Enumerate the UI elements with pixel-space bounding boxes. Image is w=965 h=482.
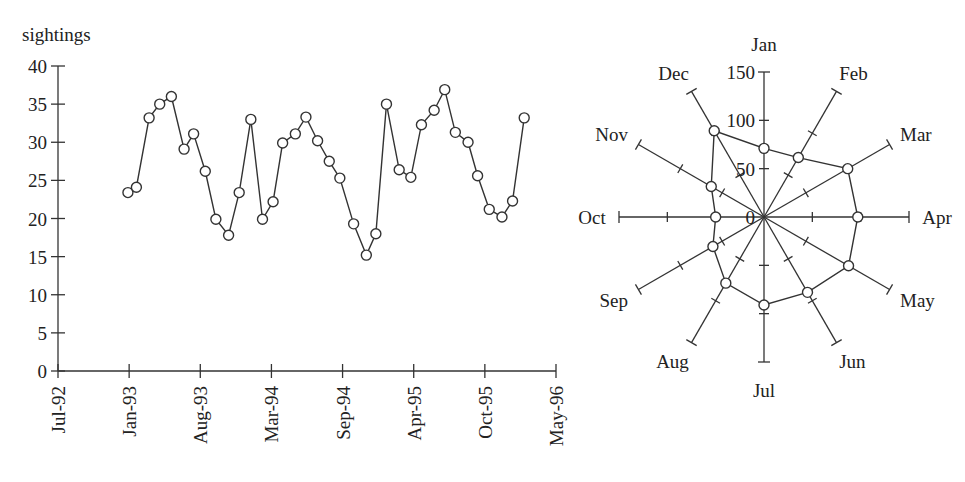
radar-end-cap [887,139,893,149]
data-point [335,173,345,183]
radar-data-point [759,143,769,153]
radar-data-point [803,287,813,297]
data-point [371,229,381,239]
y-tick-label: 30 [28,132,47,153]
data-point [224,230,234,240]
radar-end-cap [887,284,893,294]
radar-category-label: Feb [839,63,868,84]
radar-data-point [711,212,721,222]
radar-data-point [721,278,731,288]
x-tick-label: Jan-93 [119,386,140,437]
radar-tick-label: 100 [727,110,756,131]
x-tick-label: Jul-92 [48,386,69,434]
data-point [313,136,323,146]
data-point [166,92,176,102]
data-point [416,120,426,130]
radar-tick [678,261,683,270]
data-point [234,188,244,198]
y-tick-label: 0 [38,361,48,382]
x-tick-label: Aug-93 [190,386,211,444]
radar-axes: JanFebMarAprMayJunJulAugSepOctNovDec0501… [578,34,952,402]
radar-category-label: Jun [839,351,866,372]
y-tick-label: 35 [28,94,47,115]
data-point [361,250,371,260]
data-point [268,197,278,207]
radar-end-cap [635,284,641,294]
y-tick-label: 15 [28,247,47,268]
radar-category-label: Nov [595,124,628,145]
radar-spoke [764,217,837,343]
data-point [189,129,199,139]
data-point [131,182,141,192]
radar-category-label: Dec [658,63,689,84]
radar-data-point [793,153,803,163]
line-axes: 0510152025303540Jul-92Jan-93Aug-93Mar-94… [28,56,567,446]
x-tick-label: Apr-95 [404,386,425,441]
radar-tick [736,256,745,261]
data-point [324,156,334,166]
radar-tick [678,164,683,173]
radar-tick [803,237,808,246]
data-point [497,212,507,222]
y-tick-label: 10 [28,285,47,306]
data-point [246,114,256,124]
data-point [278,138,288,148]
radar-end-cap [686,88,696,94]
radar-data-point [706,182,716,192]
data-point [394,165,404,175]
data-point [450,127,460,137]
data-point [290,129,300,139]
radar-end-cap [831,88,841,94]
radar-tick [784,256,793,261]
data-point [429,105,439,115]
x-tick-label: May-96 [546,386,567,446]
data-point [406,172,416,182]
radar-tick-label: 50 [736,159,755,180]
data-point [349,219,359,229]
radar-data-point [844,261,854,271]
y-tick-label: 40 [28,56,47,77]
radar-tick [720,189,725,198]
y-axis-label: sightings [22,24,91,45]
radar-category-label: May [900,290,935,311]
radar-category-label: Oct [578,207,606,228]
y-tick-label: 20 [28,209,47,230]
radar-tick [808,298,817,303]
data-point [519,113,529,123]
line-series [123,85,529,260]
radar-tick [720,237,725,246]
data-point [257,214,267,224]
radar-category-label: Jan [751,34,777,55]
data-point [179,144,189,154]
radar-series [706,126,863,310]
x-tick-label: Mar-94 [261,386,282,443]
x-tick-label: Oct-95 [475,386,496,439]
radar-spoke [764,145,890,218]
radar-category-label: Jul [753,380,775,401]
data-point [381,99,391,109]
radar-tick-label: 150 [727,62,756,83]
data-point [211,214,221,224]
radar-data-point [843,164,853,174]
radar-tick [808,131,817,136]
y-tick-label: 25 [28,170,47,191]
data-point [200,166,210,176]
radar-tick-label: 0 [746,207,756,228]
radar-category-label: Apr [922,207,952,228]
series-line [128,90,524,255]
data-point [155,99,165,109]
line-chart: sightings 0510152025303540Jul-92Jan-93Au… [22,24,567,446]
radar-data-point [709,126,719,136]
radar-end-cap [831,340,841,346]
radar-tick [784,173,793,178]
data-point [301,112,311,122]
chart-figure: sightings 0510152025303540Jul-92Jan-93Au… [0,0,965,482]
radar-category-label: Mar [900,124,932,145]
radar-chart: JanFebMarAprMayJunJulAugSepOctNovDec0501… [578,34,952,402]
data-point [473,171,483,181]
radar-category-label: Aug [656,351,689,372]
radar-tick [711,298,720,303]
radar-data-point [708,241,718,251]
data-point [440,85,450,95]
radar-end-cap [686,340,696,346]
